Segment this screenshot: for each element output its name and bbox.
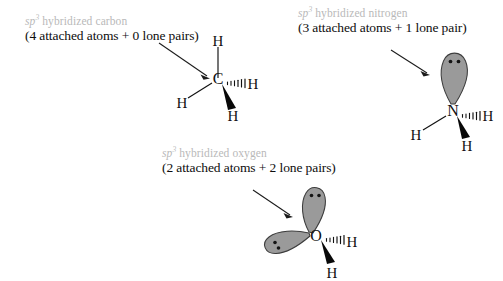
oxygen-bond-wedge-lower-right bbox=[321, 240, 335, 264]
oxygen-lone-pair-lobe-left bbox=[265, 231, 310, 253]
oxygen-caption: sp3 hybridized oxygen (2 attached atoms … bbox=[162, 146, 336, 176]
nitrogen-lone-pair-dot-2 bbox=[457, 60, 461, 64]
nitrogen-lone-pair-dot-1 bbox=[449, 60, 453, 64]
oxygen-lone-pair-left-dot-1 bbox=[273, 241, 277, 245]
carbon-bond-lower-left bbox=[188, 83, 212, 98]
carbon-heading: sp3 hybridized carbon bbox=[25, 14, 199, 28]
nitrogen-structure bbox=[385, 42, 503, 140]
carbon-hydrogen-lower-left: H bbox=[177, 96, 188, 111]
oxygen-lone-pair-upper-dot-2 bbox=[317, 194, 321, 198]
nitrogen-pointer-arrow bbox=[391, 50, 430, 76]
oxygen-lone-pair-left-dot-2 bbox=[277, 246, 281, 250]
nitrogen-lone-pair-lobe bbox=[441, 53, 467, 104]
oxygen-heading-suffix: hybridized oxygen bbox=[176, 147, 267, 159]
nitrogen-bond-hashed-right bbox=[463, 112, 481, 121]
oxygen-hydrogen-right: H bbox=[347, 235, 358, 250]
nitrogen-atom-label: N bbox=[447, 103, 459, 119]
panel-oxygen: sp3 hybridized oxygen (2 attached atoms … bbox=[150, 140, 390, 276]
carbon-heading-suffix: hybridized carbon bbox=[39, 15, 127, 27]
nitrogen-hydrogen-lower-left: H bbox=[411, 128, 422, 143]
nitrogen-bond-lower-left bbox=[423, 116, 446, 130]
carbon-hydrogen-lower-right: H bbox=[228, 109, 239, 124]
carbon-atom-label: C bbox=[213, 71, 224, 87]
oxygen-subtitle: (2 attached atoms + 2 lone pairs) bbox=[162, 160, 336, 176]
oxygen-heading-prefix: sp bbox=[162, 147, 172, 159]
carbon-heading-prefix: sp bbox=[25, 15, 35, 27]
oxygen-lone-pair-upper-dot-1 bbox=[310, 194, 314, 198]
nitrogen-subtitle: (3 attached atoms + 1 lone pair) bbox=[298, 20, 467, 36]
carbon-pointer-arrow bbox=[159, 43, 210, 80]
nitrogen-hydrogen-right: H bbox=[483, 109, 494, 124]
carbon-bond-hashed-right bbox=[228, 79, 246, 88]
carbon-hydrogen-right: H bbox=[248, 77, 259, 92]
oxygen-heading: sp3 hybridized oxygen bbox=[162, 146, 336, 160]
carbon-hydrogen-top: H bbox=[213, 34, 224, 49]
panel-carbon: sp3 hybridized carbon (4 attached atoms … bbox=[0, 0, 270, 140]
oxygen-bond-hashed-right bbox=[327, 236, 345, 245]
carbon-bond-wedge-lower-right bbox=[222, 84, 236, 110]
nitrogen-caption: sp3 hybridized nitrogen (3 attached atom… bbox=[298, 6, 467, 36]
oxygen-hydrogen-lower-right: H bbox=[327, 266, 338, 281]
oxygen-atom-label: O bbox=[310, 228, 322, 244]
panel-nitrogen: sp3 hybridized nitrogen (3 attached atom… bbox=[290, 0, 503, 140]
nitrogen-hydrogen-lower-right: H bbox=[462, 139, 473, 154]
nitrogen-heading-prefix: sp bbox=[298, 7, 308, 19]
oxygen-pointer-arrow bbox=[253, 190, 293, 218]
nitrogen-heading: sp3 hybridized nitrogen bbox=[298, 6, 467, 20]
nitrogen-heading-suffix: hybridized nitrogen bbox=[312, 7, 407, 19]
nitrogen-bond-wedge-lower-right bbox=[457, 116, 470, 139]
